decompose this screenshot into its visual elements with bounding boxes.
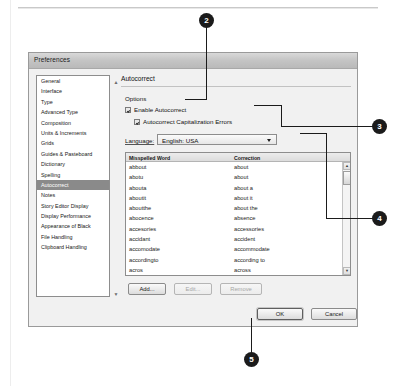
- cell-misspelled: accesories: [129, 224, 156, 234]
- callout-2-leader-vertical: [206, 27, 207, 100]
- word-list-rows: abbout about abotu about abouta about a …: [126, 162, 350, 276]
- category-item-file-handling[interactable]: File Handling: [37, 232, 109, 242]
- column-header-correction: Correction: [234, 155, 260, 161]
- table-row[interactable]: acros across: [126, 265, 350, 275]
- cell-misspelled: abocence: [129, 213, 154, 223]
- edit-button: Edit...: [174, 283, 212, 295]
- cell-misspelled: aboutit: [129, 193, 146, 203]
- pane-title: Autocorrect: [121, 75, 155, 82]
- remove-button: Remove: [220, 283, 262, 295]
- table-row[interactable]: accomodate accommodate: [126, 244, 350, 254]
- cell-correction: accident: [234, 234, 255, 244]
- cell-correction: absence: [234, 213, 256, 223]
- enable-autocorrect-checkbox[interactable]: Enable Autocorrect: [125, 106, 186, 113]
- category-item-composition[interactable]: Composition: [37, 118, 109, 128]
- page-top-rule-shadow: [18, 8, 378, 9]
- table-row[interactable]: abbout about: [126, 162, 350, 172]
- enable-autocorrect-label: Enable Autocorrect: [134, 106, 186, 113]
- callout-5-leader-vertical: [251, 318, 252, 354]
- dialog-title: Preferences: [34, 56, 70, 63]
- cell-misspelled: accomodate: [129, 244, 160, 254]
- pane-splitter-up-icon[interactable]: ▲: [113, 79, 119, 85]
- cell-misspelled: abouta: [129, 183, 146, 193]
- table-row[interactable]: accidant accident: [126, 234, 350, 244]
- scroll-up-arrow-icon[interactable]: ▲: [343, 162, 351, 170]
- autocorrect-pane: Autocorrect Options Enable Autocorrect A…: [121, 75, 351, 323]
- cell-misspelled: abbout: [129, 162, 146, 172]
- callout-marker-4: 4: [372, 211, 387, 226]
- callout-2-leader-horizontal: [185, 99, 207, 100]
- category-item-interface[interactable]: Interface: [37, 86, 109, 96]
- callout-3-leader-horizontal: [281, 126, 373, 127]
- category-item-advanced-type[interactable]: Advanced Type: [37, 107, 109, 117]
- callout-marker-5: 5: [244, 352, 259, 367]
- pane-splitter-down-icon[interactable]: ▼: [113, 291, 119, 297]
- cell-correction: about the: [234, 203, 258, 213]
- word-list-header: Misspelled Word Correction: [126, 153, 350, 162]
- cell-misspelled: accidant: [129, 234, 150, 244]
- category-item-spelling[interactable]: Spelling: [37, 170, 109, 180]
- cell-misspelled: aboutthe: [129, 203, 151, 213]
- table-row[interactable]: abocence absence: [126, 213, 350, 223]
- table-row[interactable]: accordingto according to: [126, 255, 350, 265]
- category-item-clipboard-handling[interactable]: Clipboard Handling: [37, 242, 109, 252]
- checkbox-checked-icon: [134, 119, 140, 125]
- dialog-titlebar: Preferences: [29, 53, 357, 69]
- checkbox-checked-icon: [125, 107, 131, 113]
- cell-correction: accommodate: [234, 244, 270, 254]
- category-item-appearance-of-black[interactable]: Appearance of Black: [37, 221, 109, 231]
- cell-correction: across: [234, 265, 251, 275]
- book-page: Preferences General Interface Type Advan…: [0, 0, 396, 386]
- callout-4-leader-horizontal: [326, 218, 373, 219]
- language-label: Language:: [125, 137, 154, 144]
- cell-correction: about: [234, 172, 248, 182]
- language-dropdown[interactable]: English: USA: [157, 134, 277, 145]
- chevron-down-icon: [267, 139, 271, 142]
- cell-misspelled: acheive: [129, 275, 149, 276]
- table-row[interactable]: aboutthe about the: [126, 203, 350, 213]
- table-row[interactable]: acheive achieve: [126, 275, 350, 276]
- callout-3-leader-horizontal2: [254, 105, 282, 106]
- category-item-units-increments[interactable]: Units & Increments: [37, 128, 109, 138]
- cell-correction: according to: [234, 255, 265, 265]
- cell-correction: about it: [234, 193, 253, 203]
- callout-3-leader-vertical: [281, 105, 282, 127]
- autocorrect-capitalization-label: Autocorrect Capitalization Errors: [143, 118, 232, 125]
- page-left-edge: [10, 0, 11, 386]
- category-list[interactable]: General Interface Type Advanced Type Com…: [36, 75, 110, 297]
- autocorrect-word-list[interactable]: Misspelled Word Correction abbout about …: [125, 152, 351, 276]
- options-label: Options: [125, 95, 146, 102]
- cell-correction: about a: [234, 183, 253, 193]
- callout-marker-2: 2: [199, 13, 214, 28]
- column-header-misspelled-word: Misspelled Word: [129, 155, 170, 161]
- category-item-dictionary[interactable]: Dictionary: [37, 159, 109, 169]
- callout-4-leader-horizontal2: [300, 133, 327, 134]
- add-button[interactable]: Add...: [128, 283, 166, 295]
- scrollbar-thumb[interactable]: [343, 171, 351, 185]
- cell-misspelled: acros: [129, 265, 143, 275]
- autocorrect-capitalization-checkbox[interactable]: Autocorrect Capitalization Errors: [134, 118, 232, 125]
- table-row[interactable]: accesories accessories: [126, 224, 350, 234]
- ok-button[interactable]: OK: [257, 308, 303, 320]
- language-value: English: USA: [162, 137, 198, 144]
- category-item-type[interactable]: Type: [37, 97, 109, 107]
- category-item-autocorrect[interactable]: Autocorrect: [37, 180, 109, 190]
- scroll-down-arrow-icon[interactable]: ▼: [343, 267, 351, 275]
- cell-misspelled: abotu: [129, 172, 143, 182]
- category-item-general[interactable]: General: [37, 76, 109, 86]
- cell-misspelled: accordingto: [129, 255, 158, 265]
- table-row[interactable]: abouta about a: [126, 183, 350, 193]
- cell-correction: accessories: [234, 224, 264, 234]
- callout-marker-3: 3: [372, 119, 387, 134]
- callout-4-leader-vertical: [326, 133, 327, 219]
- pane-divider: [121, 86, 351, 87]
- category-item-grids[interactable]: Grids: [37, 138, 109, 148]
- cancel-button[interactable]: Cancel: [311, 308, 357, 320]
- table-row[interactable]: abotu about: [126, 172, 350, 182]
- table-row[interactable]: aboutit about it: [126, 193, 350, 203]
- category-item-notes[interactable]: Notes: [37, 190, 109, 200]
- category-item-display-performance[interactable]: Display Performance: [37, 211, 109, 221]
- category-item-guides-pasteboard[interactable]: Guides & Pasteboard: [37, 149, 109, 159]
- category-item-story-editor-display[interactable]: Story Editor Display: [37, 201, 109, 211]
- preferences-dialog: Preferences General Interface Type Advan…: [28, 52, 358, 327]
